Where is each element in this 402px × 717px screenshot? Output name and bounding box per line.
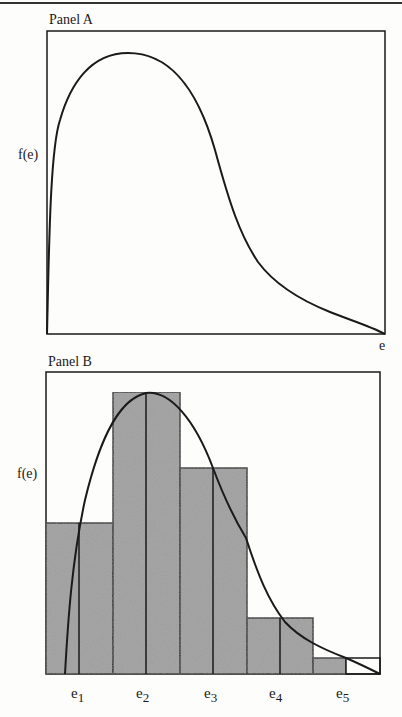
tick-e4: e4 [269, 686, 282, 705]
tick-base: e [71, 685, 78, 701]
panel-a-frame [47, 31, 385, 334]
tick-subscript: 3 [211, 690, 218, 705]
panel-b-title: Panel B [48, 355, 92, 369]
tick-e2: e2 [136, 686, 149, 705]
histogram-bars [46, 392, 346, 674]
tick-subscript: 2 [143, 690, 150, 705]
bar-e5-shaded [313, 658, 346, 674]
tick-e5: e5 [336, 686, 349, 705]
tick-base: e [136, 685, 143, 701]
tick-base: e [269, 685, 276, 701]
panel-a-density-curve [47, 53, 385, 334]
tick-e3: e3 [204, 686, 217, 705]
tick-base: e [204, 685, 211, 701]
tick-subscript: 1 [78, 690, 85, 705]
tick-e1: e1 [71, 686, 84, 705]
tick-base: e [336, 685, 343, 701]
panel-b-y-axis-label: f(e) [17, 467, 37, 481]
tick-subscript: 5 [343, 690, 350, 705]
tick-subscript: 4 [276, 690, 283, 705]
